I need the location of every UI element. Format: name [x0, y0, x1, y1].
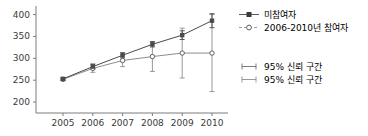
chart-figure: 200250300350400 200520062007200820092010… [0, 0, 368, 136]
series-1-line [63, 21, 212, 79]
chart-plot-area: 200250300350400 200520062007200820092010 [0, 0, 238, 136]
y-axis-tick-labels: 200250300350400 [13, 10, 30, 108]
legend-label-ci-2: 95% 신뢰 구간 [264, 73, 322, 86]
series-2-markers [61, 51, 214, 82]
svg-text:2010: 2010 [201, 118, 224, 128]
legend-label-ci-1: 95% 신뢰 구간 [264, 60, 322, 73]
legend-label-series-1: 미참여자 [264, 8, 296, 21]
legend-item-ci-2[interactable]: 95% 신뢰 구간 [238, 73, 366, 86]
svg-text:2005: 2005 [52, 118, 75, 128]
x-axis-tick-labels: 200520062007200820092010 [52, 118, 224, 128]
svg-text:2006: 2006 [81, 118, 104, 128]
svg-text:2009: 2009 [171, 118, 194, 128]
legend-label-series-2: 2006-2010년 참여자 [264, 21, 348, 34]
svg-text:300: 300 [13, 53, 30, 63]
svg-text:400: 400 [13, 10, 30, 20]
legend-marker-errorbar-icon [238, 61, 260, 72]
legend-confidence-intervals: 95% 신뢰 구간 95% 신뢰 구간 [238, 60, 366, 86]
svg-text:2007: 2007 [111, 118, 134, 128]
legend-marker-filled-square-icon [238, 9, 260, 20]
legend-item-ci-1[interactable]: 95% 신뢰 구간 [238, 60, 366, 73]
legend-marker-errorbar-icon [238, 74, 260, 85]
legend-series: 미참여자 2006-2010년 참여자 [238, 8, 366, 34]
svg-text:200: 200 [13, 97, 30, 107]
legend-item-series-1[interactable]: 미참여자 [238, 8, 366, 21]
svg-text:250: 250 [13, 75, 30, 85]
svg-text:2008: 2008 [141, 118, 164, 128]
svg-text:350: 350 [13, 31, 30, 41]
legend-marker-open-circle-icon [238, 22, 260, 33]
legend-item-series-2[interactable]: 2006-2010년 참여자 [238, 21, 366, 34]
series-2-line [63, 53, 212, 79]
